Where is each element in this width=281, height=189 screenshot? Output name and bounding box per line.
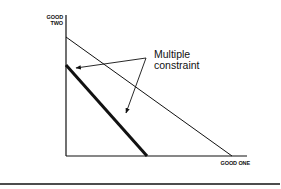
thick-constraint-line (66, 65, 147, 156)
leader-line-lower (126, 58, 146, 113)
multiple-constraint-annotation: Multiple constraint (154, 49, 200, 71)
diagram: GOOD TWO GOOD ONE Multiple constraint (0, 0, 281, 189)
annotation-line2: constraint (154, 60, 200, 71)
y-axis-label: GOOD TWO (38, 14, 63, 26)
y-axis-label-line2: TWO (38, 20, 63, 26)
leader-line-upper (76, 58, 146, 68)
thin-budget-line (66, 37, 232, 156)
x-axis-label: GOOD ONE (210, 160, 250, 166)
